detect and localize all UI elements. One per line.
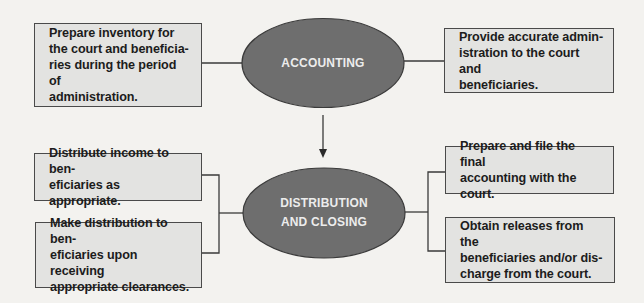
- box-prepare-final-accounting: Prepare and file the final accounting wi…: [445, 146, 614, 194]
- flow-diagram: ACCOUNTING DISTRIBUTION AND CLOSING Prep…: [0, 0, 644, 303]
- accounting-label-text: ACCOUNTING: [281, 54, 364, 73]
- box-make-distribution-text: Make distribution to ben- eficiaries upo…: [50, 215, 191, 295]
- bracket-left: [202, 175, 219, 253]
- box-provide-accurate-administration-text: Provide accurate admin- istration to the…: [459, 29, 603, 93]
- distribution-closing-label: DISTRIBUTION AND CLOSING: [243, 168, 405, 258]
- arrow-head-icon: [319, 149, 327, 158]
- box-prepare-inventory-text: Prepare inventory for the court and bene…: [49, 25, 191, 105]
- box-obtain-releases-text: Obtain releases from the beneficiaries a…: [460, 218, 604, 282]
- bracket-right: [428, 172, 445, 251]
- box-provide-accurate-administration: Provide accurate admin- istration to the…: [444, 28, 614, 93]
- box-make-distribution: Make distribution to ben- eficiaries upo…: [35, 222, 202, 288]
- box-distribute-income: Distribute income to ben- eficiaries as …: [34, 153, 202, 201]
- accounting-label: ACCOUNTING: [242, 18, 404, 108]
- box-obtain-releases: Obtain releases from the beneficiaries a…: [445, 217, 615, 283]
- distribution-closing-label-text: DISTRIBUTION AND CLOSING: [280, 194, 368, 232]
- box-prepare-final-accounting-text: Prepare and file the final accounting wi…: [460, 138, 603, 202]
- box-prepare-inventory: Prepare inventory for the court and bene…: [34, 23, 202, 107]
- box-distribute-income-text: Distribute income to ben- eficiaries as …: [49, 145, 191, 209]
